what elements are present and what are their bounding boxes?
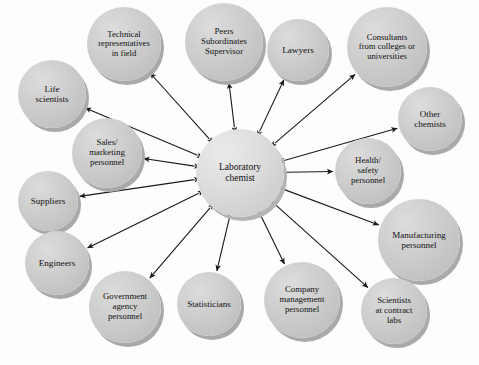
node-lawyers[interactable]: Lawyers xyxy=(267,19,329,81)
node-technical-representatives-in-field[interactable]: Technicalrepresentativesin field xyxy=(87,7,161,81)
node-manufacturing-personnel[interactable]: Manufacturingpersonnel xyxy=(378,199,460,281)
node-label-manufacturing-personnel: Manufacturingpersonnel xyxy=(390,230,447,250)
edge-laboratory-chemist-to-sales-marketing-personnel xyxy=(144,159,195,167)
node-label-life-scientists: Lifescientists xyxy=(34,84,71,104)
node-label-sales-marketing-personnel: Sales/marketingpersonnel xyxy=(87,138,127,168)
node-laboratory-chemist[interactable]: Laboratorychemist xyxy=(196,129,284,217)
node-label-statisticians: Statisticians xyxy=(185,299,233,309)
edge-laboratory-chemist-to-company-management-personnel xyxy=(260,214,284,264)
node-label-other-chemists: Otherchemists xyxy=(412,109,448,129)
node-label-lawyers: Lawyers xyxy=(280,45,316,55)
node-health-safety-personnel[interactable]: Health/safetypersonnel xyxy=(335,138,401,204)
edge-laboratory-chemist-to-technical-representatives-in-field xyxy=(150,73,209,139)
edge-laboratory-chemist-to-statisticians xyxy=(217,218,230,271)
node-peers-subordinates-supervisor[interactable]: PeersSubordinatesSupervisor xyxy=(185,3,263,81)
node-sales-marketing-personnel[interactable]: Sales/marketingpersonnel xyxy=(72,118,142,188)
node-label-health-safety-personnel: Health/safetypersonnel xyxy=(349,156,387,186)
node-other-chemists[interactable]: Otherchemists xyxy=(398,87,462,151)
node-company-management-personnel[interactable]: Companymanagementpersonnel xyxy=(264,262,340,338)
node-label-engineers: Engineers xyxy=(37,258,78,268)
node-statisticians[interactable]: Statisticians xyxy=(177,272,241,336)
node-government-agency-personnel[interactable]: Governmentagencypersonnel xyxy=(89,271,161,343)
node-label-technical-representatives-in-field: Technicalrepresentativesin field xyxy=(96,30,152,59)
diagram-canvas: LifescientistsTechnicalrepresentativesin… xyxy=(0,0,479,365)
edge-laboratory-chemist-to-government-agency-personnel xyxy=(150,208,210,278)
node-consultants-from-colleges-or-universities[interactable]: Consultantsfrom colleges oruniversities xyxy=(347,7,427,87)
node-label-scientists-at-contract-labs: Scientistsat contractlabs xyxy=(374,296,415,326)
node-engineers[interactable]: Engineers xyxy=(25,231,89,295)
node-label-company-management-personnel: Companymanagementpersonnel xyxy=(278,285,327,315)
node-life-scientists[interactable]: Lifescientists xyxy=(18,60,86,128)
node-label-suppliers: Suppliers xyxy=(29,196,68,206)
edge-laboratory-chemist-to-peers-subordinates-supervisor xyxy=(229,83,234,128)
node-label-laboratory-chemist: Laboratorychemist xyxy=(217,162,263,183)
node-suppliers[interactable]: Suppliers xyxy=(18,171,78,231)
node-label-consultants-from-colleges-or-universities: Consultantsfrom colleges oruniversities xyxy=(357,33,417,62)
edge-laboratory-chemist-to-consultants-from-colleges-or-universities xyxy=(275,74,355,143)
node-scientists-at-contract-labs[interactable]: Scientistsat contractlabs xyxy=(361,278,427,344)
edge-laboratory-chemist-to-lawyers xyxy=(260,80,284,132)
node-label-peers-subordinates-supervisor: PeersSubordinatesSupervisor xyxy=(199,27,249,57)
edge-laboratory-chemist-to-health-safety-personnel xyxy=(286,172,333,173)
node-label-government-agency-personnel: Governmentagencypersonnel xyxy=(101,292,149,322)
